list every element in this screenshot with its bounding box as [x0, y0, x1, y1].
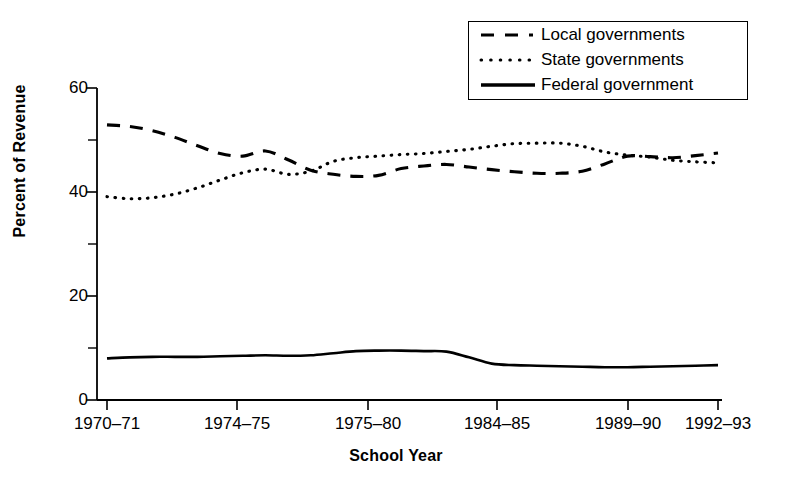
data-series-layer [107, 125, 718, 367]
legend-label-state: State governments [539, 50, 684, 70]
legend-label-local: Local governments [539, 25, 685, 45]
legend-swatch-dashed-icon [477, 28, 539, 42]
axis-lines [97, 88, 722, 400]
chart-figure: Percent of Revenue 60 40 20 0 1970–71 19… [0, 0, 792, 493]
legend-swatch-dotted-icon [477, 53, 539, 67]
x-axis-ticks [107, 400, 718, 410]
legend-item-local: Local governments [469, 22, 747, 47]
y-axis-ticks [86, 88, 97, 400]
series-line-federal-government [107, 351, 718, 368]
legend-swatch-solid-icon [477, 78, 539, 92]
legend-item-state: State governments [469, 47, 747, 72]
legend-item-federal: Federal government [469, 72, 747, 97]
series-line-local-governments [107, 125, 718, 177]
legend-label-federal: Federal government [539, 75, 693, 95]
chart-legend: Local governments State governments Fede… [468, 21, 748, 100]
series-line-state-governments [107, 143, 718, 199]
